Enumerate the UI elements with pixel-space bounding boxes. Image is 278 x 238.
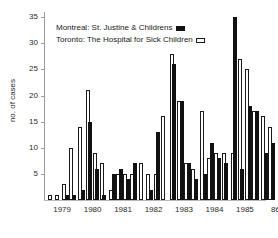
x-axis-tick-label: 1981: [107, 205, 139, 214]
x-axis-tick-label: 1984: [198, 205, 230, 214]
bar: [69, 148, 73, 200]
y-axis-tick: 10: [0, 148, 44, 149]
x-axis-tick-label: 1983: [168, 205, 200, 214]
x-axis-tick-label: 1979: [46, 205, 78, 214]
y-axis-tick: 20: [0, 96, 44, 97]
y-axis-tick-label: 5: [34, 168, 38, 179]
bar: [102, 195, 106, 200]
y-axis-tick: 5: [0, 174, 44, 175]
legend-label-montreal: Montreal: St. Justine & Childrens: [56, 22, 173, 34]
bar: [55, 195, 59, 200]
y-axis-tick: 25: [0, 69, 44, 70]
bar: [139, 163, 143, 200]
bar: [156, 132, 160, 200]
x-axis-tick-label: 1982: [138, 205, 170, 214]
legend-item-toronto: Toronto: The Hospital for Sick Children: [56, 34, 205, 46]
y-axis-tick-label: 35: [29, 11, 38, 22]
y-axis-tick-label: 15: [29, 116, 38, 127]
bar: [180, 101, 184, 200]
bar: [240, 169, 244, 200]
y-axis-tick: 30: [0, 43, 44, 44]
bar: [194, 179, 198, 200]
y-axis-tick-label: 10: [29, 142, 38, 153]
bar: [95, 169, 99, 200]
y-axis-tick: 15: [0, 122, 44, 123]
bar: [133, 163, 137, 200]
bar: [248, 106, 252, 200]
bar: [255, 111, 259, 200]
bar: [210, 143, 214, 200]
chart-legend: Montreal: St. Justine & Childrens Toront…: [56, 22, 205, 46]
y-axis-tick-label: 25: [29, 63, 38, 74]
y-axis-tick-label: 30: [29, 37, 38, 48]
bar: [233, 17, 237, 200]
x-axis-tick-label: 1985: [229, 205, 261, 214]
bar: [172, 64, 176, 200]
bar-chart-figure: no. of cases 5101520253035 1979198019811…: [0, 0, 278, 238]
bar: [65, 195, 69, 200]
legend-item-montreal: Montreal: St. Justine & Childrens: [56, 22, 205, 34]
bar: [264, 153, 268, 200]
bar: [217, 158, 221, 200]
bar: [119, 169, 123, 200]
legend-label-toronto: Toronto: The Hospital for Sick Children: [56, 34, 193, 46]
bar: [161, 116, 165, 200]
bar: [126, 179, 130, 200]
filled-square-icon: [176, 26, 185, 31]
bar: [187, 163, 191, 200]
y-axis-tick-label: 20: [29, 90, 38, 101]
bar: [81, 190, 85, 200]
x-axis-tick-label: 1980: [77, 205, 109, 214]
bar: [271, 143, 275, 200]
bar: [224, 163, 228, 200]
bar: [149, 190, 153, 200]
open-square-icon: [196, 38, 205, 43]
bar: [48, 195, 52, 200]
x-axis-tick-label: 86: [259, 205, 278, 214]
bar: [72, 195, 76, 200]
y-axis-tick: 35: [0, 17, 44, 18]
x-axis-line: [44, 200, 266, 201]
bar: [203, 174, 207, 200]
bar: [88, 122, 92, 200]
bar: [112, 174, 116, 200]
y-axis-title: no. of cases: [8, 61, 17, 141]
